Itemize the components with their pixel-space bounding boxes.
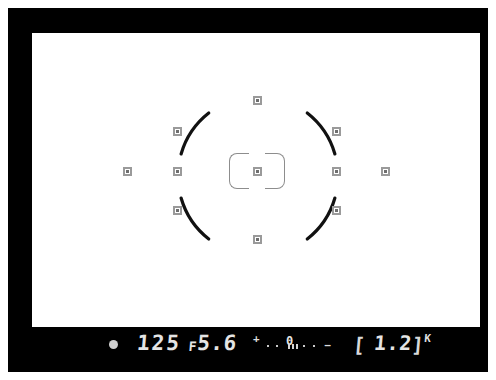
af-mid-right-dot [335, 170, 338, 173]
exposure-scale-plus-sign: + [253, 332, 260, 345]
af-far-right-dot [384, 170, 387, 173]
exposure-scale-dot-1 [276, 345, 278, 347]
af-mid-right[interactable] [332, 167, 341, 176]
exposure-scale-tick-2 [296, 344, 298, 349]
center-bracket-right-segment [265, 153, 285, 189]
af-mid-left-dot [176, 170, 179, 173]
af-lower-right[interactable] [332, 206, 341, 215]
focus-confirmation-indicator-icon [109, 340, 118, 349]
exposure-scale-tick-0 [288, 344, 290, 349]
exposure-scale-dot-2 [303, 345, 305, 347]
arc-top-right [307, 113, 335, 154]
af-upper-left-dot [176, 130, 179, 133]
frame-counter-right-bracket: ] [411, 333, 425, 357]
af-top-dot [256, 99, 259, 102]
frame-counter-left-bracket: [ [352, 333, 366, 357]
af-far-left-dot [126, 170, 129, 173]
af-top[interactable] [253, 96, 262, 105]
camera-viewfinder: 125 F 5.6 + 0 − [ 1.2 ] K [0, 0, 496, 380]
arc-bottom-left [181, 198, 209, 239]
arc-top-left [181, 113, 209, 154]
af-lower-right-dot [335, 209, 338, 212]
center-bracket-left-segment [229, 153, 249, 189]
exposure-compensation-scale: + 0 − [253, 332, 331, 356]
arc-bottom-right [307, 198, 335, 239]
frame-counter-value: 1.2 [373, 333, 412, 353]
exposure-scale-tick-1 [292, 344, 294, 349]
viewfinder-info-bar: 125 F 5.6 + 0 − [ 1.2 ] K [32, 327, 480, 372]
af-lower-left[interactable] [173, 206, 182, 215]
af-upper-right-dot [335, 130, 338, 133]
aperture-readout: F 5.6 [188, 333, 238, 354]
exposure-scale-dot-0 [267, 345, 269, 347]
af-lower-left-dot [176, 209, 179, 212]
af-upper-left[interactable] [173, 127, 182, 136]
af-far-right[interactable] [381, 167, 390, 176]
focusing-screen [32, 33, 480, 327]
viewfinder-body-frame: 125 F 5.6 + 0 − [ 1.2 ] K [8, 8, 488, 372]
frame-counter-readout: [ 1.2 ] K [352, 333, 431, 357]
exposure-scale-dot-3 [313, 345, 315, 347]
af-bottom[interactable] [253, 235, 262, 244]
aperture-value: 5.6 [196, 333, 237, 354]
shutter-speed-value: 125 [136, 333, 182, 354]
exposure-scale-minus-sign: − [324, 339, 331, 352]
af-bottom-dot [256, 238, 259, 241]
af-upper-right[interactable] [332, 127, 341, 136]
af-far-left[interactable] [123, 167, 132, 176]
center-af-bracket[interactable] [229, 153, 285, 189]
frame-counter-unit-label: K [424, 332, 432, 345]
af-mid-left[interactable] [173, 167, 182, 176]
